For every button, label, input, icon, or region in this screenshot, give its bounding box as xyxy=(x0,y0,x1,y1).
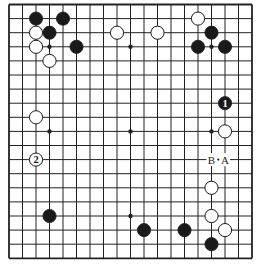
white-stone xyxy=(29,111,42,124)
black-stone xyxy=(178,224,191,237)
white-stone xyxy=(218,224,231,237)
go-board: BA 12 xyxy=(0,0,257,267)
point-label-a: A xyxy=(220,153,230,166)
white-stone xyxy=(151,26,164,39)
white-stone xyxy=(29,26,42,39)
black-stone xyxy=(56,12,69,25)
black-stone xyxy=(137,224,150,237)
point-label-b: B xyxy=(207,153,217,166)
black-stone xyxy=(29,12,42,25)
black-stone xyxy=(205,26,218,39)
black-stone xyxy=(218,40,231,53)
star-point xyxy=(209,129,213,133)
black-stone-1: 1 xyxy=(218,97,231,110)
black-stone xyxy=(70,40,83,53)
white-stone xyxy=(205,209,218,222)
white-stone xyxy=(110,26,123,39)
white-stone xyxy=(43,54,56,67)
move-number: 1 xyxy=(222,98,227,109)
star-point xyxy=(128,129,132,133)
star-point xyxy=(209,45,213,49)
white-stone xyxy=(29,40,42,53)
black-stone xyxy=(191,40,204,53)
white-stone xyxy=(218,125,231,138)
black-stone xyxy=(43,209,56,222)
move-number: 2 xyxy=(33,154,38,165)
black-stone xyxy=(43,26,56,39)
svg-text:B: B xyxy=(208,154,215,166)
point-labels: BA xyxy=(207,153,231,166)
black-stone xyxy=(205,238,218,251)
white-stone xyxy=(191,12,204,25)
star-point xyxy=(47,45,51,49)
white-stone xyxy=(205,181,218,194)
star-point xyxy=(128,45,132,49)
svg-text:A: A xyxy=(221,154,229,166)
white-stone-2: 2 xyxy=(29,153,42,166)
star-point xyxy=(128,214,132,218)
star-point xyxy=(47,129,51,133)
